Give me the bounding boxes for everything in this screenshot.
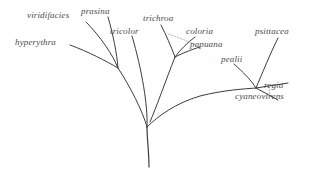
branch-root-to-tricolor — [132, 36, 147, 127]
taxon-label-coloria: coloria — [186, 26, 213, 36]
taxon-label-papuana: papuana — [190, 39, 223, 49]
taxon-label-pealii: pealii — [221, 54, 242, 64]
taxon-label-trichroa: trichroa — [143, 13, 173, 23]
taxon-label-viridifacies: viridifacies — [27, 10, 69, 20]
branch-stem — [147, 126, 149, 167]
taxon-label-tricolor: tricolor — [110, 26, 139, 36]
taxon-label-hyperythra: hyperythra — [15, 37, 56, 47]
taxon-label-prasina: prasina — [81, 6, 110, 16]
branch-right-to-pealii — [234, 64, 256, 88]
taxon-label-regia: regia — [264, 80, 283, 90]
branch-root-to-mid-clade — [150, 57, 175, 122]
branch-left-to-prasina — [108, 17, 118, 68]
phylogenetic-tree-figure: viridifacies prasina trichroa coloria ps… — [0, 0, 316, 169]
branch-root-to-left-clade — [118, 68, 147, 127]
branch-left-to-hyperythra — [70, 45, 118, 68]
taxon-label-psittacea: psittacea — [255, 26, 289, 36]
taxon-label-cyaneovirens: cyaneovirens — [235, 91, 284, 101]
branch-mid-to-trichroa — [161, 25, 175, 57]
